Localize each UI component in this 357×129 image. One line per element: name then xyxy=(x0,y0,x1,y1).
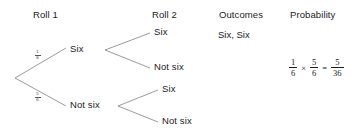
factor-2-numerator: 5 xyxy=(310,58,318,67)
branch-probability-not-six: 5 6 xyxy=(33,92,42,102)
probability-factor-2: 5 6 xyxy=(310,58,318,78)
roll1-node-six: Six xyxy=(70,43,84,54)
probability-factor-1: 1 6 xyxy=(289,58,297,78)
roll2-node-six-upper: Six xyxy=(154,26,168,37)
equals-sign: = xyxy=(322,63,327,73)
branch-probability-not-six-denominator: 6 xyxy=(33,98,42,103)
result-numerator: 5 xyxy=(333,58,341,67)
outcome-six-six: Six, Six xyxy=(218,29,250,40)
branch-six-to-not-six xyxy=(105,50,150,68)
branch-probability-six-denominator: 6 xyxy=(33,56,42,61)
branch-not-six-to-not-six xyxy=(118,106,158,122)
probability-expression: 1 6 × 5 6 = 5 36 xyxy=(288,58,345,78)
roll2-node-six-lower: Six xyxy=(162,83,176,94)
factor-1-denominator: 6 xyxy=(289,68,297,77)
probability-result: 5 36 xyxy=(331,58,344,78)
roll2-node-not-six-upper: Not six xyxy=(154,61,184,72)
roll1-node-not-six: Not six xyxy=(70,99,100,110)
branch-probability-six: 1 6 xyxy=(33,50,42,60)
result-denominator: 36 xyxy=(331,68,344,77)
factor-2-denominator: 6 xyxy=(310,68,318,77)
factor-1-numerator: 1 xyxy=(289,58,297,67)
roll2-node-not-six-lower: Not six xyxy=(162,115,192,126)
multiplication-sign: × xyxy=(301,63,306,73)
branch-six-to-six xyxy=(105,33,150,50)
branch-not-six-to-six xyxy=(118,90,158,106)
probability-tree-diagram: Roll 1 Roll 2 Outcomes Probability 1 6 5… xyxy=(0,0,357,129)
